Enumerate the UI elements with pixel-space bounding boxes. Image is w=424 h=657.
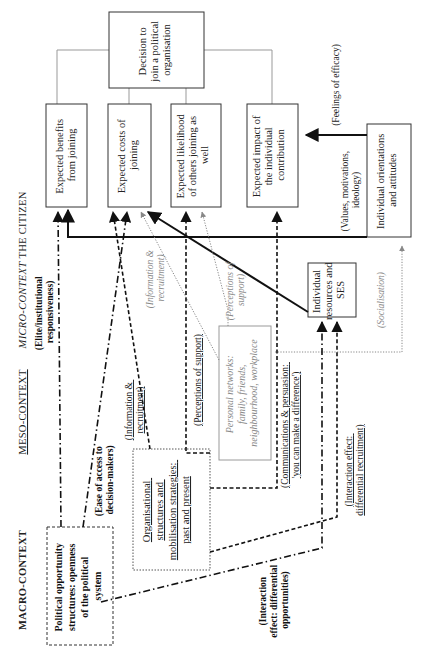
level-headers: MACRO-CONTEXT MESO-CONTEXT MICRO-CONTEXT…: [17, 191, 28, 630]
label-info-meso: (Information & recruitment): [124, 380, 146, 441]
node-likelihood: Expected likelihood of others joining as…: [171, 104, 221, 207]
arrow-pos-to-benefits: [58, 212, 61, 527]
label-ease-of-access: (Ease of access to decision-makers): [94, 444, 116, 516]
node-orientations: Individual orientations and attitudes: [367, 124, 411, 237]
node-personal-networks: Personal networks: family, friends, neig…: [219, 326, 271, 460]
label-efficacy: (Feelings of efficacy): [331, 44, 342, 126]
label-info-micro: (Information & recruitment): [145, 248, 167, 309]
node-benefits: Expected benefits from joining: [46, 104, 87, 207]
header-the-citizen: THE CITIZEN: [17, 191, 28, 258]
header-micro-context: MICRO-CONTEXT: [17, 261, 28, 350]
joining-model-diagram: MACRO-CONTEXT MESO-CONTEXT MICRO-CONTEXT…: [0, 0, 424, 657]
node-political-opportunity: Political opportunity structures: openne…: [47, 527, 113, 645]
label-communications: (Communications & persuasion: 'you can m…: [280, 362, 302, 488]
label-socialisation: (Socialisation): [376, 272, 387, 328]
node-impact: Expected impact of the individual contri…: [247, 104, 298, 207]
svg-text:Decision to join a polit: Decision to join a political organisatio…: [137, 18, 172, 82]
connector-benefits: [57, 50, 109, 104]
label-elite-responsiveness: (Elite/institutional responsiveness): [34, 274, 56, 350]
label-perceptions-meso: (Perceptions of support): [193, 334, 204, 426]
node-costs: Expected costs of joining: [108, 104, 151, 207]
label-values: (Values, motivations, ideology): [340, 149, 362, 232]
node-resources: Individual resources and SES: [308, 260, 356, 320]
header-macro-context: MACRO-CONTEXT: [17, 530, 28, 630]
node-organisational: Organisational structures and mobilisati…: [133, 449, 210, 570]
label-interaction-recruitment: (Interaction effect: differential recrui…: [344, 424, 366, 515]
label-perceptions-micro: (Perceptions of support): [225, 260, 247, 320]
header-meso-context: MESO-CONTEXT: [17, 369, 28, 455]
connector-impact: [204, 50, 272, 104]
label-interaction-opportunities: (Interaction effect: differential opport…: [258, 562, 291, 637]
node-decision: Decision to join a political organisatio…: [109, 12, 204, 88]
